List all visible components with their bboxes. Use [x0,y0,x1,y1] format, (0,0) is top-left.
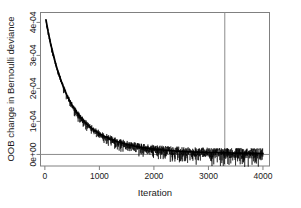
chart-figure: 01000200030004000 0e+001e-042e-043e-044e… [0,0,301,208]
oob-deviance-line-chart: 01000200030004000 0e+001e-042e-043e-044e… [0,0,301,208]
x-axis-tick-label: 2000 [144,171,163,181]
y-axis-tick-label: 2e-04 [28,77,38,99]
x-axis-tick-label: 1000 [90,171,109,181]
x-axis-tick-label: 4000 [253,171,272,181]
x-axis-title: Iteration [138,187,172,198]
y-axis-tick-label: 0e+00 [28,142,38,166]
y-axis-tick-label: 1e-04 [28,110,38,132]
x-axis-tick-label: 3000 [199,171,218,181]
y-axis-tick-label: 3e-04 [28,44,38,66]
y-axis-title: OOB change in Bernoulli deviance [5,16,16,161]
y-axis-tick-label: 4e-04 [28,11,38,33]
x-axis-tick-label: 0 [42,171,47,181]
